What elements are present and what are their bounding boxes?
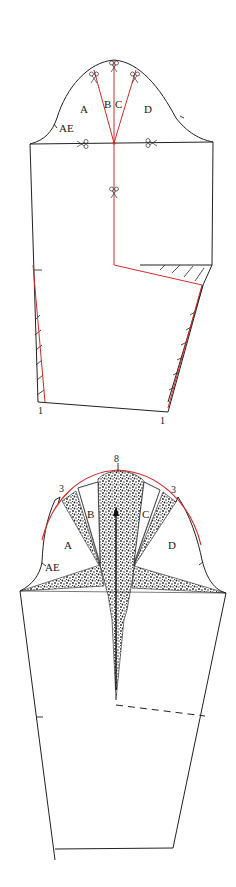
panel-label-b: B — [104, 98, 111, 110]
sleeve-left-side — [20, 591, 55, 860]
panel-label-c: C — [115, 98, 122, 110]
sleeve-right-side — [212, 142, 213, 265]
panel-label-ae: AE — [45, 561, 60, 573]
left-horizontal-spread — [20, 565, 104, 591]
panel-label-d: D — [168, 539, 176, 551]
notch-mark — [199, 562, 203, 565]
panel-label-c: C — [142, 508, 149, 520]
spread-mark-top: 8 — [114, 453, 119, 464]
notch-mark — [54, 124, 57, 128]
top-sleeve-pattern: A B C D AE 1 1 — [30, 60, 213, 426]
spread-mark-right: 3 — [171, 484, 176, 495]
spread-mark-left: 3 — [59, 483, 64, 494]
scissors-icon — [77, 140, 88, 149]
hem-line — [55, 848, 173, 849]
slash-lines — [33, 60, 202, 408]
panel-label-b: B — [87, 508, 94, 520]
bottom-sleeve-pattern: 8 3 3 B C A D AE — [20, 453, 226, 860]
notch-mark — [180, 116, 184, 118]
bicep-line — [30, 142, 213, 144]
panel-label-a: A — [64, 539, 72, 551]
sleeve-right-side — [173, 593, 226, 848]
hem-line — [38, 402, 168, 412]
pivot-point — [112, 141, 115, 144]
panel-label-a: A — [80, 103, 88, 115]
panel-label-ae: AE — [59, 122, 74, 134]
right-horizontal-spread — [132, 566, 226, 593]
sleeve-pattern-diagram: A B C D AE 1 1 — [0, 0, 236, 887]
elbow-dart-hatch — [160, 265, 204, 281]
right-lower-side — [168, 285, 203, 412]
hem-mark-left: 1 — [38, 405, 43, 416]
hem-mark-right: 1 — [160, 415, 165, 426]
elbow-dashed-line — [116, 705, 205, 716]
panel-label-d: D — [144, 103, 152, 115]
